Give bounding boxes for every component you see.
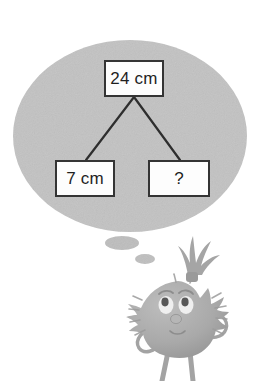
leg-left <box>162 352 168 381</box>
part-box-right: ? <box>148 160 210 197</box>
pupil-left <box>161 298 168 307</box>
monster-nose <box>171 314 182 323</box>
thought-bubble-trail <box>105 236 155 264</box>
illustration-scene: 24 cm 7 cm ? <box>0 0 276 381</box>
whole-box-label: 24 cm <box>110 70 157 87</box>
part-box-right-label: ? <box>174 170 184 187</box>
artwork-layer <box>0 0 276 381</box>
whole-box: 24 cm <box>104 60 164 97</box>
part-box-left-label: 7 cm <box>66 170 104 187</box>
monster-hair-tuft <box>178 236 220 282</box>
bubble-trail-large <box>105 236 139 250</box>
part-box-left: 7 cm <box>55 160 115 197</box>
pupil-right <box>181 298 188 307</box>
bubble-trail-small <box>135 254 155 264</box>
